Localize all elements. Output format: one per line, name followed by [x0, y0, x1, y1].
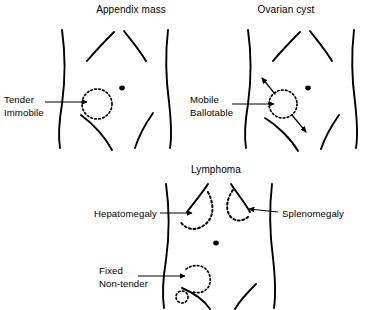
umbilicus	[119, 86, 125, 91]
torso-right-flank	[166, 30, 171, 148]
pelvic-mass-outline	[186, 266, 210, 293]
label-fixed: Fixed	[99, 265, 123, 276]
inguinal-crease-left	[81, 115, 112, 150]
abdominal-mass-diagram: Appendix mass Tender Immobile Ovarian cy…	[0, 0, 372, 310]
mobility-arrow-lower	[292, 115, 306, 132]
label-hepatomegaly: Hepatomegaly	[94, 208, 157, 219]
umbilicus	[305, 86, 311, 91]
costal-margin-right	[231, 184, 250, 212]
splenomegaly-leader	[249, 209, 278, 212]
panel-lymphoma: Lymphoma Hepatomegaly Splenomegaly Fixed…	[94, 164, 344, 309]
panel-title-lymphoma: Lymphoma	[191, 164, 241, 175]
torso-left-flank	[245, 30, 251, 148]
inguinal-crease-right	[321, 115, 339, 149]
inguinal-crease-left	[182, 288, 210, 309]
hepatomegaly-outline	[180, 192, 212, 229]
label-splenomegaly: Splenomegaly	[282, 208, 344, 219]
panel-title-appendix-mass: Appendix mass	[96, 4, 166, 15]
inguinal-crease-right	[235, 284, 256, 309]
costal-margin-left	[187, 184, 208, 212]
label-tender: Tender	[4, 94, 35, 105]
label-mobile: Mobile	[190, 94, 219, 105]
panel-title-ovarian-cyst: Ovarian cyst	[258, 4, 315, 15]
appendix-mass-outline	[82, 89, 112, 119]
costal-margin-left	[273, 32, 300, 61]
inguinal-crease-left	[265, 118, 298, 151]
inguinal-crease-right	[135, 113, 153, 148]
costal-margin-left	[87, 32, 114, 61]
costal-margin-right	[310, 31, 332, 61]
umbilicus	[213, 241, 219, 246]
panel-appendix-mass: Appendix mass Tender Immobile	[4, 4, 171, 150]
torso-right-flank	[270, 184, 275, 308]
torso-right-flank	[352, 30, 357, 148]
torso-left-flank	[163, 184, 169, 308]
costal-margin-right	[124, 31, 146, 61]
diagram-canvas: Appendix mass Tender Immobile Ovarian cy…	[0, 0, 372, 310]
label-non-tender: Non-tender	[99, 278, 149, 289]
small-node-outline	[176, 291, 188, 303]
panel-ovarian-cyst: Ovarian cyst Mobile Ballotable	[190, 4, 357, 151]
label-ballotable: Ballotable	[190, 107, 233, 118]
mobility-arrow-upper	[262, 78, 275, 94]
torso-left-flank	[59, 30, 65, 148]
label-immobile: Immobile	[4, 107, 44, 118]
